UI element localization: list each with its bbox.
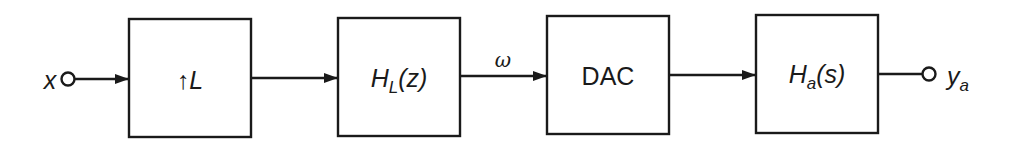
interp-filter-label: HL(z) xyxy=(371,66,428,91)
output-subscript: a xyxy=(960,76,969,95)
analog-filter-subscript: a xyxy=(807,74,816,93)
upsampling-factor: L xyxy=(189,66,203,94)
block-diagram: x ↑L HL(z) ω DAC Ha(s) ya xyxy=(0,0,1014,149)
output-symbol: y xyxy=(947,62,960,90)
input-terminal-icon xyxy=(62,73,75,86)
output-terminal-icon xyxy=(923,68,936,81)
output-label: ya xyxy=(947,64,969,89)
analog-filter-symbol: H xyxy=(789,60,807,88)
analog-filter-label: Ha(s) xyxy=(789,62,846,87)
upsampler-label: ↑L xyxy=(177,68,203,93)
filter-symbol: H xyxy=(371,64,389,92)
edge-label-omega: ω xyxy=(495,50,511,70)
dac-label: DAC xyxy=(582,64,635,89)
filter-argument: (z) xyxy=(398,64,427,92)
filter-subscript: L xyxy=(389,78,398,97)
up-arrow-icon: ↑ xyxy=(177,66,190,94)
diagram-canvas xyxy=(0,0,1014,149)
input-symbol: x xyxy=(44,66,57,94)
input-label: x xyxy=(44,68,57,93)
analog-filter-argument: (s) xyxy=(816,60,845,88)
